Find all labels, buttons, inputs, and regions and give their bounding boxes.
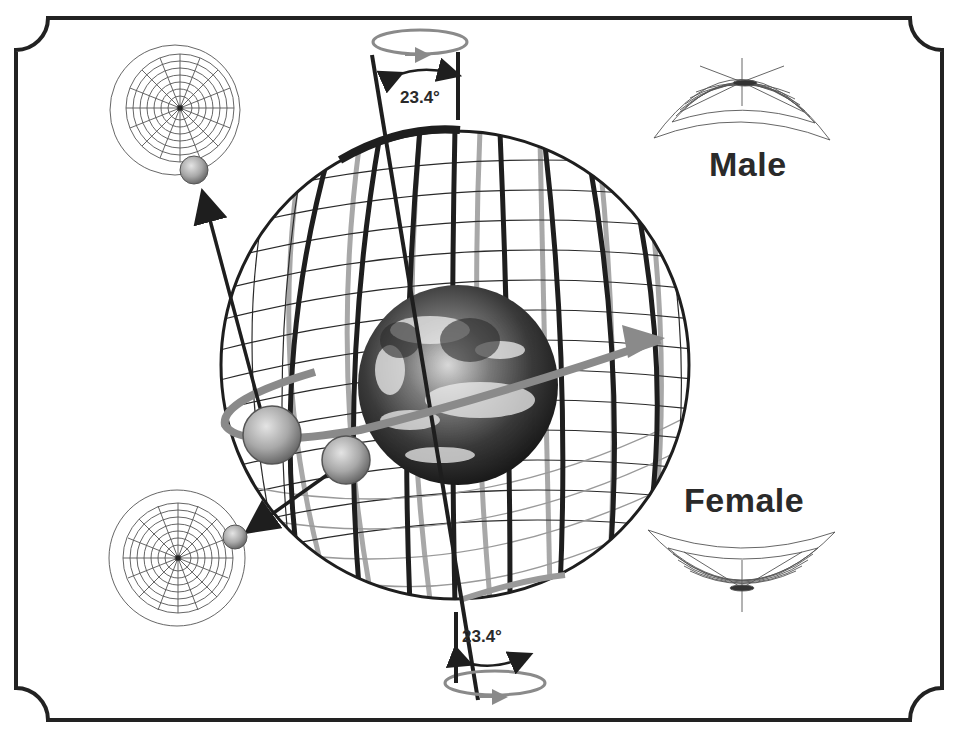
moon-arrows <box>206 205 334 524</box>
male-label: Male <box>709 145 787 184</box>
diagram-svg <box>0 0 958 736</box>
moon-1 <box>243 406 301 464</box>
female-label: Female <box>684 481 804 520</box>
female-saddle-grid <box>648 530 835 612</box>
moon-small-bottom <box>223 525 247 549</box>
axial-tilt-indicator-bottom <box>445 612 545 697</box>
polar-grid-top-left <box>110 45 240 175</box>
top-angle-label: 23.4° <box>400 88 440 108</box>
moon-small-top <box>180 156 208 184</box>
polar-grid-bottom-left <box>109 490 245 626</box>
moon-2 <box>322 436 370 484</box>
male-saddle-grid <box>654 58 830 140</box>
bottom-angle-label: 23.4° <box>462 627 502 647</box>
diagram-canvas: 23.4° 23.4° Male Female <box>0 0 958 736</box>
